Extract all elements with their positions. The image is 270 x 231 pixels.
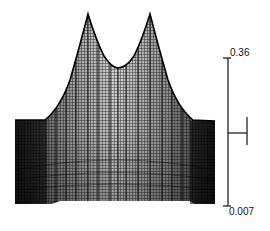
scale-min-label: 0.007: [229, 207, 254, 217]
scale-max-label: 0.36: [230, 48, 249, 58]
surface-plot: [0, 0, 270, 231]
z-scale-bar: [223, 58, 247, 206]
